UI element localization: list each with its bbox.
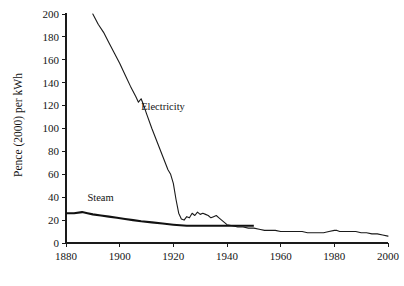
y-tick-label: 200 [43, 8, 60, 20]
x-tick-label: 1880 [55, 250, 78, 262]
y-tick-label: 60 [48, 168, 60, 180]
x-tick-label: 1900 [109, 250, 132, 262]
y-tick-label: 180 [43, 31, 60, 43]
series-layer [66, 14, 388, 236]
series-annotation-electricity: Electricity [141, 101, 185, 112]
y-tick-label: 40 [48, 191, 60, 203]
x-tick-label: 1940 [216, 250, 239, 262]
chart-figure: 0204060801001201401601802001880190019201… [0, 0, 404, 286]
x-tick-label: 2000 [377, 250, 400, 262]
x-tick-label: 1920 [162, 250, 185, 262]
annotation-layer: ElectricitySteam [87, 101, 185, 202]
y-tick-label: 160 [43, 54, 60, 66]
y-tick-label: 0 [54, 237, 60, 249]
x-tick-label: 1960 [270, 250, 293, 262]
tick-label-layer: 0204060801001201401601802001880190019201… [43, 8, 400, 262]
series-annotation-steam: Steam [87, 192, 113, 203]
axis-title-layer: Pence (2000) per kWh [12, 73, 25, 177]
axis-layer [62, 13, 388, 247]
y-tick-label: 140 [43, 77, 60, 89]
y-tick-label: 120 [43, 99, 60, 111]
line-chart: 0204060801001201401601802001880190019201… [0, 0, 404, 286]
x-tick-label: 1980 [323, 250, 346, 262]
y-tick-label: 80 [48, 145, 60, 157]
series-line-electricity [93, 14, 388, 236]
y-axis-title: Pence (2000) per kWh [12, 73, 25, 177]
y-tick-label: 20 [48, 214, 60, 226]
y-tick-label: 100 [43, 122, 60, 134]
